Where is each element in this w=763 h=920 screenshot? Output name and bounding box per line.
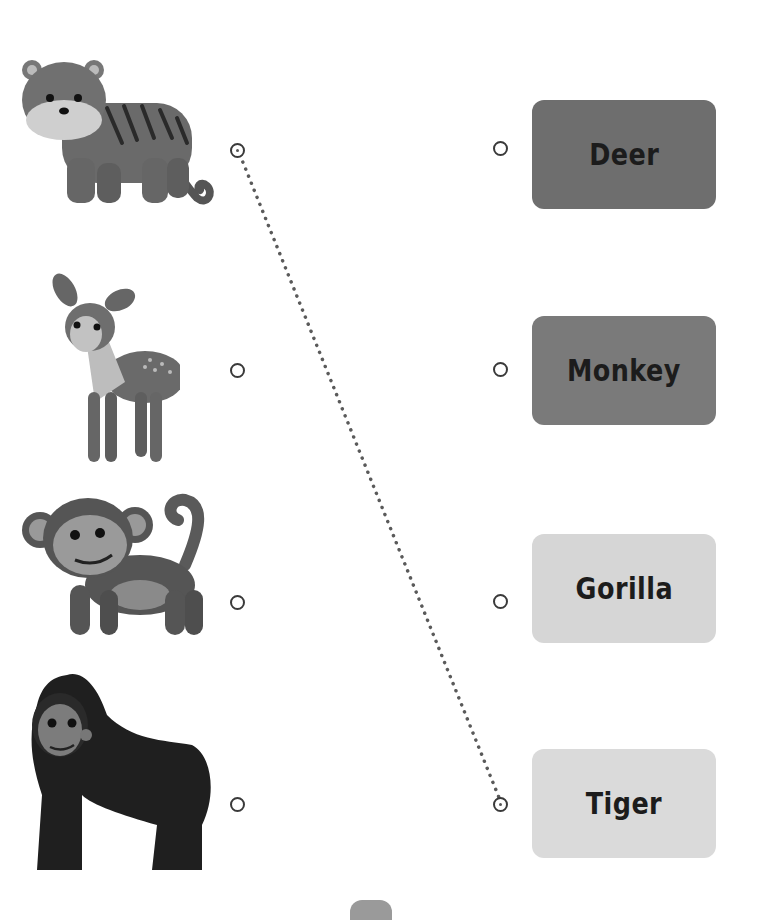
monkey-label-match-circle[interactable]	[493, 362, 508, 377]
tiger-match-circle[interactable]	[230, 143, 245, 158]
label-text: Deer	[589, 137, 659, 172]
gorilla-image	[22, 665, 212, 880]
deer-match-circle[interactable]	[230, 363, 245, 378]
monkey-match-circle[interactable]	[230, 595, 245, 610]
label-text: Gorilla	[575, 571, 672, 606]
label-card-tiger[interactable]: Tiger	[532, 749, 716, 858]
label-card-gorilla[interactable]: Gorilla	[532, 534, 716, 643]
deer-image	[50, 272, 180, 467]
label-text: Monkey	[567, 353, 681, 388]
tiger-label-match-circle[interactable]	[493, 797, 508, 812]
label-card-deer[interactable]: Deer	[532, 100, 716, 209]
deer-label-match-circle[interactable]	[493, 141, 508, 156]
tiger-image	[12, 58, 217, 213]
gorilla-match-circle[interactable]	[230, 797, 245, 812]
label-text: Tiger	[586, 786, 662, 821]
page-number-tab	[350, 900, 392, 920]
label-card-monkey[interactable]: Monkey	[532, 316, 716, 425]
monkey-image	[20, 490, 215, 645]
gorilla-label-match-circle[interactable]	[493, 594, 508, 609]
